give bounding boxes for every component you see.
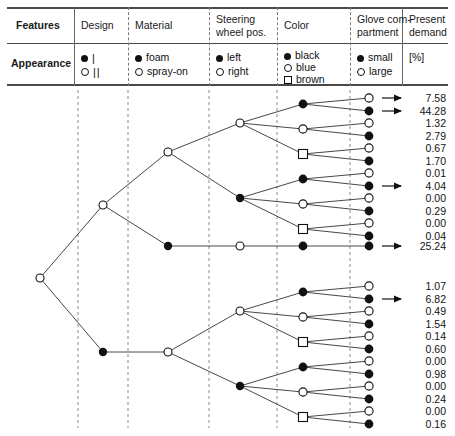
demand-value-4: 2.79 — [406, 131, 446, 142]
edge-mat-a-steer-right — [168, 123, 240, 152]
column-guide-lines — [78, 90, 350, 428]
node-color-black-1[interactable] — [299, 100, 308, 109]
node-steering-left-2[interactable] — [236, 382, 244, 390]
demand-value-22: 0.00 — [406, 381, 446, 392]
demand-value-3: 1.32 — [406, 118, 446, 129]
node-steering-right-2[interactable] — [236, 242, 244, 250]
edge-color-leaf-10a — [303, 336, 369, 342]
demand-value-1: 7.58 — [406, 93, 446, 104]
node-color-brown-1[interactable] — [299, 150, 308, 159]
leaf-node-12[interactable] — [365, 232, 374, 241]
demand-value-5: 0.67 — [406, 143, 446, 154]
demand-value-19: 0.60 — [406, 344, 446, 355]
demand-value-9: 0.00 — [406, 193, 446, 204]
leaf-node-6[interactable] — [365, 157, 374, 166]
edge-steer2-color-black — [240, 179, 303, 198]
edge-color-leaf-4b — [303, 179, 369, 186]
edge-color-leaf-6b — [303, 229, 369, 236]
demand-value-23: 0.24 — [406, 394, 446, 405]
leaf-node-19[interactable] — [365, 345, 374, 354]
node-material-sprayon-bot[interactable] — [164, 348, 172, 356]
demand-value-14: 1.07 — [406, 281, 446, 292]
node-color-brown-2[interactable] — [299, 225, 308, 234]
demand-value-15: 6.82 — [406, 294, 446, 305]
conjoint-decision-tree-figure: Features Appearance Design Material Stee… — [0, 0, 455, 436]
leaf-node-24[interactable] — [365, 407, 373, 415]
node-color-brown-3[interactable] — [299, 338, 308, 347]
edge-color-leaf-13b — [303, 417, 369, 424]
leaf-node-14[interactable] — [365, 282, 373, 290]
node-design-option1[interactable] — [99, 348, 107, 356]
demand-value-11: 0.00 — [406, 218, 446, 229]
leaf-node-4[interactable] — [365, 132, 374, 141]
demand-value-25: 0.16 — [406, 419, 446, 430]
demand-value-24: 0.00 — [406, 406, 446, 417]
leaf-node-11[interactable] — [365, 219, 373, 227]
leaf-node-2[interactable] — [365, 107, 374, 116]
node-color-black-2[interactable] — [299, 175, 308, 184]
leaf-node-15[interactable] — [365, 295, 374, 304]
node-color-black-3[interactable] — [299, 242, 308, 251]
edge-color-leaf-4a — [303, 173, 369, 179]
demand-value-8: 4.04 — [406, 181, 446, 192]
node-color-black-5[interactable] — [299, 363, 308, 372]
node-steering-left-1[interactable] — [236, 194, 244, 202]
edge-color-leaf-11a — [303, 361, 369, 367]
edge-color-leaf-5a — [303, 198, 369, 204]
leaf-node-25[interactable] — [365, 420, 374, 429]
leaf-node-5[interactable] — [365, 144, 373, 152]
edge-color-leaf-12b — [303, 392, 369, 399]
node-color-blue-1[interactable] — [299, 125, 307, 133]
node-material-sprayon-top[interactable] — [164, 148, 172, 156]
leaf-node-9[interactable] — [365, 194, 373, 202]
demand-value-2: 44.28 — [406, 106, 446, 117]
leaf-node-20[interactable] — [365, 357, 373, 365]
leaf-node-13[interactable] — [365, 242, 374, 251]
demand-value-20: 0.00 — [406, 356, 446, 367]
edge-color-leaf-2b — [303, 129, 369, 136]
node-steering-right-3[interactable] — [236, 307, 244, 315]
node-steering-right-1[interactable] — [236, 119, 244, 127]
edge-color-leaf-5b — [303, 204, 369, 211]
decision-tree-graph — [0, 0, 455, 436]
demand-value-18: 0.14 — [406, 331, 446, 342]
edge-color-leaf-10b — [303, 342, 369, 349]
node-material-foam-top[interactable] — [164, 242, 172, 250]
leaf-node-7[interactable] — [365, 169, 373, 177]
node-design-option2[interactable] — [99, 201, 107, 209]
edge-mat-c-steer-right — [168, 311, 240, 352]
demand-value-16: 0.49 — [406, 306, 446, 317]
edge-root-design-bot — [40, 278, 103, 352]
edge-color-leaf-9b — [303, 317, 369, 324]
node-color-brown-4[interactable] — [299, 413, 308, 422]
leaf-node-18[interactable] — [365, 332, 373, 340]
edge-mat-a-steer-left — [168, 152, 240, 198]
edge-color-leaf-11b — [303, 367, 369, 374]
edge-color-leaf-2a — [303, 123, 369, 129]
leaf-node-21[interactable] — [365, 370, 374, 379]
leaf-node-3[interactable] — [365, 119, 373, 127]
demand-value-7: 0.01 — [406, 168, 446, 179]
leaf-node-1[interactable] — [365, 94, 373, 102]
edge-mat-c-steer-left — [168, 352, 240, 386]
leaf-node-16[interactable] — [365, 307, 373, 315]
node-color-black-4[interactable] — [299, 288, 308, 297]
node-root[interactable] — [36, 274, 44, 282]
edge-steer1-color-black — [240, 104, 303, 123]
edge-color-leaf-8a — [303, 286, 369, 292]
demand-value-13: 25.24 — [406, 241, 446, 252]
edge-color-leaf-8b — [303, 292, 369, 299]
demand-value-21: 0.98 — [406, 369, 446, 380]
edge-steer4-color-black — [240, 292, 303, 311]
leaf-node-10[interactable] — [365, 207, 374, 216]
node-color-blue-3[interactable] — [299, 313, 307, 321]
edge-color-leaf-1b — [303, 104, 369, 111]
node-color-blue-2[interactable] — [299, 200, 307, 208]
node-color-blue-4[interactable] — [299, 388, 307, 396]
leaf-node-17[interactable] — [365, 320, 374, 329]
leaf-node-22[interactable] — [365, 382, 373, 390]
leaf-node-23[interactable] — [365, 395, 374, 404]
leaf-node-8[interactable] — [365, 182, 374, 191]
edge-color-leaf-13a — [303, 411, 369, 417]
edge-designtop-mat-b — [103, 205, 168, 246]
